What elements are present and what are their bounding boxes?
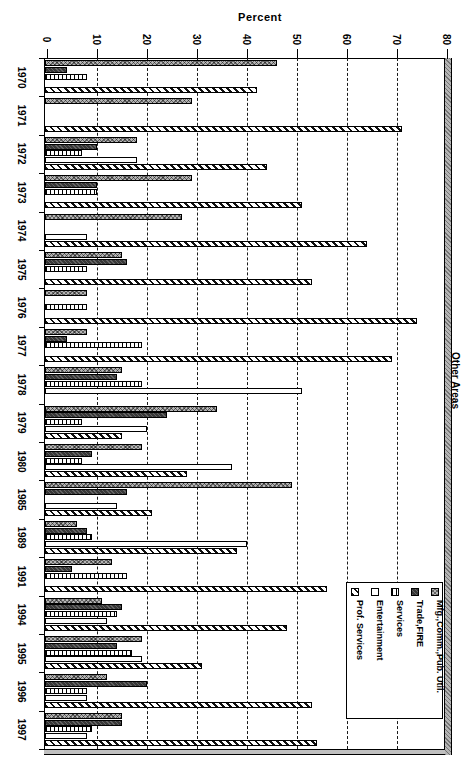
year-label: 1979 [6, 404, 36, 442]
value-tick-label: 80 [437, 24, 457, 54]
year-label: 1994 [6, 596, 36, 634]
bar-1995-series-5 [45, 663, 202, 669]
bar-1997-series-1 [45, 713, 122, 719]
bar-1980-series-3 [45, 458, 82, 464]
year-label-text: 1973 [16, 181, 27, 203]
bar-1978-series-2 [45, 374, 117, 380]
bar-1974-series-1 [45, 214, 182, 220]
value-tick-label: 0 [37, 24, 57, 54]
bar-1976-series-3 [45, 304, 87, 310]
legend-marker-prof-services [351, 588, 359, 596]
year-label: 1976 [6, 288, 36, 326]
value-axis-title: Percent [150, 11, 370, 23]
bar-1989-series-5 [45, 548, 237, 554]
bar-1979-series-2 [45, 412, 167, 418]
value-tick-label-text: 20 [142, 33, 153, 44]
year-label-text: 1970 [16, 66, 27, 88]
bar-1972-series-3 [45, 150, 82, 156]
chart-page: Percent 01020304050607080197019711972197… [0, 0, 470, 781]
bar-1975-series-5 [45, 279, 312, 285]
bar-1985-series-2 [45, 489, 127, 495]
year-label-text: 1995 [16, 642, 27, 664]
year-label-text: 1975 [16, 258, 27, 280]
bar-1989-series-2 [45, 528, 87, 534]
year-label-text: 1994 [16, 604, 27, 626]
legend-label: Services [395, 600, 405, 637]
category-axis-tick [39, 404, 44, 405]
year-label-text: 1991 [16, 565, 27, 587]
bar-1977-series-1 [45, 329, 87, 335]
bar-1996-series-1 [45, 674, 107, 680]
year-label-text: 1985 [16, 488, 27, 510]
bar-1972-series-1 [45, 137, 137, 143]
bar-1994-series-1 [45, 598, 102, 604]
gridline-20 [147, 58, 148, 749]
value-tick-label-text: 0 [42, 36, 53, 42]
bar-1985-series-5 [45, 510, 152, 516]
year-label: 1973 [6, 173, 36, 211]
bar-1989-series-4 [45, 541, 247, 547]
bar-1985-series-4 [45, 503, 117, 509]
year-label-text: 1980 [16, 450, 27, 472]
legend-label: Entertainment [375, 600, 385, 661]
value-axis-line [40, 58, 452, 59]
bar-1976-series-5 [45, 318, 417, 324]
bar-1978-series-4 [45, 388, 302, 394]
value-tick-label-text: 30 [192, 33, 203, 44]
year-label: 1972 [6, 135, 36, 173]
category-axis-tick [39, 327, 44, 328]
bar-1974-series-5 [45, 241, 367, 247]
bar-1994-series-4 [45, 618, 107, 624]
bar-1971-series-1 [45, 98, 192, 104]
bar-1979-series-4 [45, 426, 147, 432]
bar-1996-series-4 [45, 695, 87, 701]
year-label-text: 1972 [16, 143, 27, 165]
year-label: 1971 [6, 96, 36, 134]
bar-1997-series-2 [45, 720, 122, 726]
legend-label: Prof. Services [355, 600, 365, 660]
bar-1991-series-3 [45, 573, 127, 579]
chart-title-text: Other Areas [450, 352, 461, 409]
bar-1979-series-3 [45, 419, 82, 425]
year-label-text: 1976 [16, 296, 27, 318]
legend-marker-mfg-comm-pub-util- [431, 588, 439, 596]
bar-1991-series-5 [45, 586, 327, 592]
category-axis-tick [39, 96, 44, 97]
legend-box: Mfg.,Comm.,Pub. Util.Trade,FIREServicesE… [346, 582, 443, 719]
year-label: 1970 [6, 58, 36, 96]
bar-1997-series-5 [45, 740, 317, 746]
bar-1996-series-3 [45, 688, 87, 694]
bar-1995-series-4 [45, 656, 142, 662]
year-label-text: 1996 [16, 680, 27, 702]
category-axis-tick [39, 557, 44, 558]
category-axis-tick [39, 596, 44, 597]
category-axis-tick [39, 135, 44, 136]
value-tick-label-text: 40 [242, 33, 253, 44]
bar-1980-series-5 [45, 471, 187, 477]
gridline-30 [197, 58, 198, 749]
year-label: 1974 [6, 212, 36, 250]
bar-1991-series-1 [45, 559, 112, 565]
bar-1978-series-1 [45, 367, 122, 373]
bar-1973-series-2 [45, 182, 97, 188]
category-axis-tick [39, 749, 44, 750]
bar-1997-series-4 [45, 733, 87, 739]
category-axis-tick [39, 634, 44, 635]
value-tick-label: 20 [137, 24, 157, 54]
gridline-40 [247, 58, 248, 749]
bar-1996-series-5 [45, 702, 312, 708]
chart-floor [44, 749, 445, 755]
year-label-text: 1978 [16, 373, 27, 395]
bar-1973-series-5 [45, 202, 302, 208]
gridline-50 [297, 58, 298, 749]
value-tick-label-text: 60 [342, 33, 353, 44]
legend-marker-services [391, 588, 399, 596]
bar-1977-series-5 [45, 356, 392, 362]
value-tick-label: 10 [87, 24, 107, 54]
category-axis-tick [39, 58, 44, 59]
category-axis-tick [39, 173, 44, 174]
bar-1979-series-1 [45, 406, 217, 412]
bar-1989-series-1 [45, 521, 77, 527]
value-tick-label: 70 [387, 24, 407, 54]
value-tick-label-text: 70 [392, 33, 403, 44]
